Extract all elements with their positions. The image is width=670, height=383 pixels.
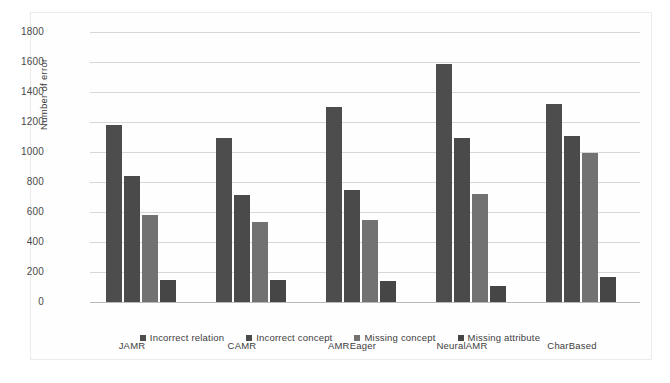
legend-item-missing-attribute[interactable]: Missing attribute [458, 332, 541, 343]
bar-jamr-incorrect-relation[interactable] [106, 125, 122, 302]
bar-group-jamr [106, 32, 176, 302]
bar-jamr-missing-attribute[interactable] [160, 280, 176, 303]
y-tick-label: 1200 [0, 117, 44, 127]
y-tick-label: 200 [0, 267, 44, 277]
y-tick-label: 1600 [0, 57, 44, 67]
legend-item-missing-concept[interactable]: Missing concept [354, 332, 435, 343]
bar-charbased-incorrect-relation[interactable] [546, 104, 562, 302]
bar-neuralamr-missing-concept[interactable] [472, 194, 488, 302]
legend-label: Incorrect concept [256, 332, 332, 343]
y-tick-label: 1000 [0, 147, 44, 157]
y-tick-label: 400 [0, 237, 44, 247]
bar-camr-missing-concept[interactable] [252, 222, 268, 302]
bar-amreager-incorrect-concept[interactable] [344, 190, 360, 303]
bar-charbased-missing-attribute[interactable] [600, 277, 616, 302]
legend-item-incorrect-concept[interactable]: Incorrect concept [246, 332, 332, 343]
legend-label: Incorrect relation [150, 332, 224, 343]
bar-neuralamr-missing-attribute[interactable] [490, 286, 506, 303]
bar-camr-incorrect-relation[interactable] [216, 138, 232, 302]
legend-item-incorrect-relation[interactable]: Incorrect relation [140, 332, 224, 343]
bar-neuralamr-incorrect-concept[interactable] [454, 138, 470, 302]
bar-group-charbased [546, 32, 616, 302]
legend-swatch-icon [354, 335, 360, 341]
legend-label: Missing concept [364, 332, 435, 343]
bar-amreager-missing-concept[interactable] [362, 220, 378, 303]
plot-area: 180016001400120010008006004002000JAMRCAM… [90, 32, 640, 302]
bar-charbased-missing-concept[interactable] [582, 153, 598, 302]
bar-jamr-incorrect-concept[interactable] [124, 176, 140, 302]
y-tick-label: 600 [0, 207, 44, 217]
bar-camr-missing-attribute[interactable] [270, 280, 286, 302]
chart-legend: Incorrect relationIncorrect conceptMissi… [90, 332, 590, 343]
y-tick-label: 800 [0, 177, 44, 187]
legend-swatch-icon [140, 335, 146, 341]
bar-charbased-incorrect-concept[interactable] [564, 136, 580, 303]
bar-chart-figure: Number of error 180016001400120010008006… [0, 0, 670, 383]
legend-swatch-icon [458, 335, 464, 341]
y-tick-label: 1400 [0, 87, 44, 97]
bar-neuralamr-incorrect-relation[interactable] [436, 64, 452, 303]
bar-group-amreager [326, 32, 396, 302]
bar-amreager-incorrect-relation[interactable] [326, 107, 342, 302]
gridline-0 [90, 302, 640, 303]
bar-group-neuralamr [436, 32, 506, 302]
bar-jamr-missing-concept[interactable] [142, 215, 158, 302]
legend-label: Missing attribute [468, 332, 541, 343]
bar-camr-incorrect-concept[interactable] [234, 195, 250, 302]
legend-swatch-icon [246, 335, 252, 341]
y-tick-label: 1800 [0, 27, 44, 37]
bar-amreager-missing-attribute[interactable] [380, 281, 396, 302]
bar-group-camr [216, 32, 286, 302]
y-tick-label: 0 [0, 297, 44, 307]
